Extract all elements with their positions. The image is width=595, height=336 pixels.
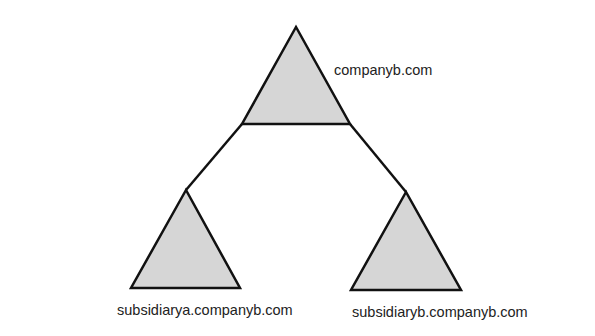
connector-root-to-subsidiarya bbox=[186, 124, 242, 190]
root-domain-label: companyb.com bbox=[334, 62, 432, 78]
subsidiarya-domain-triangle bbox=[131, 190, 240, 288]
connector-root-to-subsidiaryb bbox=[350, 124, 406, 192]
domain-tree-diagram: companyb.com subsidiarya.companyb.com su… bbox=[0, 0, 595, 336]
subsidiarya-domain-label: subsidiarya.companyb.com bbox=[117, 302, 293, 318]
subsidiaryb-domain-label: subsidiaryb.companyb.com bbox=[352, 304, 528, 320]
subsidiaryb-domain-triangle bbox=[351, 192, 461, 290]
